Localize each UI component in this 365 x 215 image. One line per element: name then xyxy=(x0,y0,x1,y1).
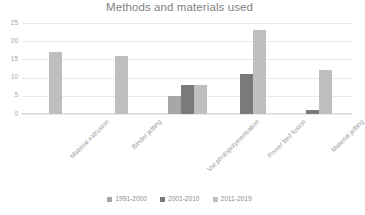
bar xyxy=(319,70,332,114)
bar-group xyxy=(154,23,220,114)
bar-group xyxy=(286,23,352,114)
y-axis-tick-label: 15 xyxy=(0,56,18,63)
bar xyxy=(240,74,253,114)
x-axis-tick-label: Material extrusion xyxy=(68,118,110,160)
y-axis-tick-label: 25 xyxy=(0,20,18,27)
chart-title: Methods and materials used xyxy=(0,1,359,13)
bar-group xyxy=(220,23,286,114)
plot-area xyxy=(22,23,352,114)
bar-group xyxy=(88,23,154,114)
bar xyxy=(49,52,62,114)
x-axis-tick-label: Vat photopolymerisation xyxy=(206,118,261,173)
legend-item[interactable]: 1991-2000 xyxy=(107,196,147,203)
x-axis-tick-label: Binder jetting xyxy=(130,118,162,150)
bar xyxy=(181,85,194,114)
legend-label: 1991-2000 xyxy=(115,196,147,203)
bar xyxy=(306,110,319,114)
y-axis-tick-label: 0 xyxy=(0,111,18,118)
y-axis-tick-label: 5 xyxy=(0,92,18,99)
bar xyxy=(115,56,128,114)
legend-label: 2011-2019 xyxy=(221,196,252,203)
bar xyxy=(168,96,181,114)
chart-legend: 1991-20002001-20102011-2019 xyxy=(0,196,359,203)
y-axis-tick-label: 10 xyxy=(0,74,18,81)
gridline xyxy=(22,114,352,115)
x-axis-tick-label: Material jetting xyxy=(330,118,365,153)
legend-swatch-icon xyxy=(213,197,218,202)
legend-swatch-icon xyxy=(160,197,165,202)
legend-item[interactable]: 2011-2019 xyxy=(213,196,252,203)
y-axis-tick-label: 20 xyxy=(0,38,18,45)
bar xyxy=(253,30,266,114)
legend-label: 2001-2010 xyxy=(168,196,200,203)
bar-group xyxy=(22,23,88,114)
x-axis-tick-label: Power bed fusion xyxy=(266,118,307,159)
bar xyxy=(194,85,207,114)
legend-item[interactable]: 2001-2010 xyxy=(160,196,200,203)
legend-swatch-icon xyxy=(107,197,112,202)
